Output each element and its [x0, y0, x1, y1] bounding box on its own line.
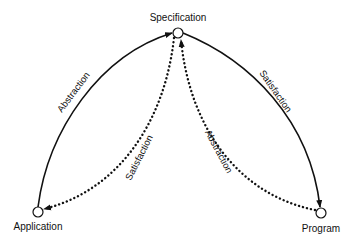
edge-program-to-specification-dotted	[181, 40, 315, 210]
node-label-specification: Specification	[150, 12, 207, 23]
edge-label-satisfaction-dotted: Satisfaction	[123, 133, 155, 182]
node-label-program: Program	[302, 223, 340, 234]
edge-label-satisfaction-solid: Satisfaction	[257, 68, 294, 115]
node-label-application: Application	[14, 221, 63, 232]
edge-specification-to-application-dotted	[44, 38, 174, 209]
node-program	[316, 208, 326, 218]
edge-label-abstraction-solid: Abstraction	[55, 70, 92, 115]
diagram-canvas: Specification Application Program Abstra…	[0, 0, 352, 246]
edge-application-to-specification	[38, 33, 172, 207]
node-specification	[173, 28, 183, 38]
node-application	[33, 207, 43, 217]
edge-label-abstraction-dotted: Abstraction	[203, 128, 235, 175]
